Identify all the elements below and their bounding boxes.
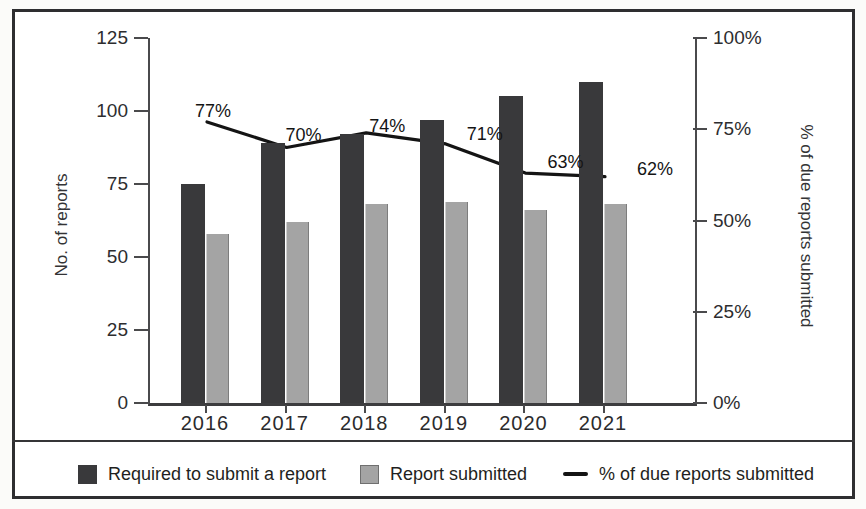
right-axis-tickmark [693, 220, 707, 222]
left-axis-tickmark [134, 402, 148, 404]
left-axis-tickmark [134, 110, 148, 112]
x-axis-tick-label: 2019 [408, 412, 480, 435]
dark-square-swatch-icon [78, 465, 97, 484]
bar-required-2020 [499, 96, 523, 403]
percent-point-label-2021: 62% [637, 159, 673, 180]
bar-required-2021 [579, 82, 603, 403]
gray-square-swatch-icon [360, 465, 379, 484]
left-axis-tickmark [134, 37, 148, 39]
left-axis-tick-label: 25 [74, 319, 128, 341]
x-axis-tick-label: 2020 [487, 412, 559, 435]
left-axis-tick-label: 0 [74, 392, 128, 414]
x-axis-tick-label: 2017 [249, 412, 321, 435]
left-axis-tick-label: 50 [74, 246, 128, 268]
legend-separator [12, 440, 855, 442]
percent-point-label-2020: 63% [547, 152, 583, 173]
x-axis-tick-label: 2018 [328, 412, 400, 435]
percent-point-label-2019: 71% [467, 124, 503, 145]
right-axis-tick-label: 100% [713, 27, 767, 49]
percent-point-label-2017: 70% [286, 125, 322, 146]
legend-label-submitted: Report submitted [390, 464, 527, 485]
right-axis-tickmark [693, 128, 707, 130]
left-axis-tickmark [134, 256, 148, 258]
left-axis-tickmark [134, 329, 148, 331]
legend-label-percent-line: % of due reports submitted [599, 464, 814, 485]
bar-submitted-2018 [365, 204, 388, 403]
right-axis-title: % of due reports submitted [796, 124, 816, 327]
bar-submitted-2017 [286, 222, 309, 403]
x-axis-tick-label: 2021 [567, 412, 639, 435]
line-swatch-icon [563, 472, 588, 476]
right-axis-tick-label: 25% [713, 301, 767, 323]
bar-submitted-2019 [445, 202, 468, 403]
chart-page: 1251007550250100%75%50%25%0%201620172018… [0, 0, 866, 509]
bar-submitted-2016 [206, 234, 229, 403]
legend-label-required: Required to submit a report [108, 464, 326, 485]
left-axis-title: No. of reports [52, 174, 72, 277]
legend-item-submitted: Report submitted [360, 463, 527, 485]
right-axis-tick-label: 75% [713, 118, 767, 140]
right-axis-tick-label: 50% [713, 210, 767, 232]
bar-required-2016 [181, 184, 205, 403]
left-axis-tick-label: 75 [74, 173, 128, 195]
legend-item-percent-line: % of due reports submitted [563, 463, 814, 485]
percent-point-label-2018: 74% [369, 116, 405, 137]
left-axis-tick-label: 100 [74, 100, 128, 122]
bar-submitted-2021 [604, 204, 627, 403]
bar-required-2017 [261, 143, 285, 403]
bar-required-2019 [420, 120, 444, 403]
right-axis-tick-label: 0% [713, 392, 767, 414]
right-axis-tickmark [693, 37, 707, 39]
right-axis-tickmark [693, 311, 707, 313]
x-axis-tick-label: 2016 [169, 412, 241, 435]
legend-item-required: Required to submit a report [78, 463, 326, 485]
percent-point-label-2016: 77% [195, 101, 231, 122]
right-axis-tickmark [693, 402, 707, 404]
bar-required-2018 [340, 134, 364, 403]
left-axis-tickmark [134, 183, 148, 185]
left-axis-tick-label: 125 [74, 27, 128, 49]
bar-submitted-2020 [524, 210, 547, 403]
